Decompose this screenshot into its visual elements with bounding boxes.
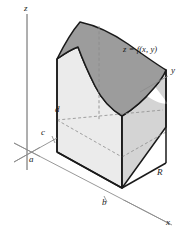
mark-c-label: c <box>41 128 45 137</box>
math-figure-solid-under-surface: z y x z = f(x, y) a b c d R <box>0 0 184 236</box>
mark-a-label: a <box>29 155 34 164</box>
z-axis-label: z <box>24 4 28 13</box>
x-axis-label: x <box>166 218 170 227</box>
mark-d-label: d <box>55 105 60 114</box>
y-axis-label: y <box>171 66 175 75</box>
surface-equation-label: z = f(x, y) <box>123 45 157 54</box>
mark-b-label: b <box>102 198 107 207</box>
figure-canvas <box>0 0 184 236</box>
region-R-label: R <box>157 168 163 177</box>
